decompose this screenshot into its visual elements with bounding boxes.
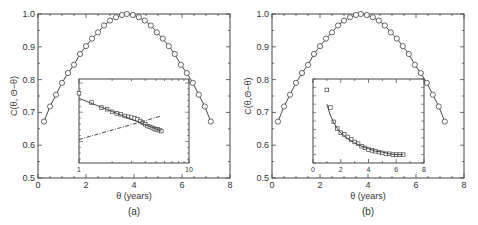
inset-x-tick-label: 0	[311, 166, 315, 173]
inset-data-marker-square	[77, 91, 81, 95]
data-marker-circle	[208, 119, 213, 124]
inset-x-tick-label: 4	[367, 166, 371, 173]
x-tick-label: 6	[179, 180, 184, 190]
inset-x-tick-label: 8	[422, 166, 426, 173]
y-tick-label: 1.0	[256, 9, 269, 19]
data-marker-circle	[136, 15, 141, 20]
inset-data-marker-square	[325, 88, 329, 92]
y-tick-label: 0.9	[256, 42, 269, 52]
panel-caption: (b)	[362, 206, 374, 217]
y-axis-label: C(θ, Θ−θ)	[9, 76, 19, 116]
data-marker-circle	[47, 104, 52, 109]
data-marker-circle	[406, 51, 411, 56]
data-marker-circle	[113, 15, 118, 20]
inset-plot: 02468	[311, 79, 426, 173]
data-marker-circle	[41, 119, 46, 124]
y-tick-label: 1.0	[22, 9, 35, 19]
x-tick-label: 4	[365, 180, 370, 190]
data-marker-circle	[160, 36, 165, 41]
x-tick-label: 8	[461, 180, 466, 190]
inset-x-tick-label: 2	[339, 166, 343, 173]
data-marker-circle	[370, 15, 375, 20]
panel-a: 024680.50.60.70.80.91.0θ (years)C(θ, Θ−θ…	[9, 9, 233, 217]
y-tick-label: 0.6	[22, 140, 35, 150]
data-marker-circle	[281, 104, 286, 109]
data-marker-circle	[184, 70, 189, 75]
x-tick-label: 6	[413, 180, 418, 190]
y-tick-label: 0.7	[22, 107, 35, 117]
y-tick-label: 0.6	[256, 140, 269, 150]
data-marker-circle	[418, 70, 423, 75]
inset-plot: 110	[77, 79, 193, 173]
x-tick-label: 4	[131, 180, 136, 190]
data-marker-circle	[148, 23, 153, 28]
data-marker-circle	[130, 12, 135, 17]
data-marker-circle	[388, 30, 393, 35]
x-axis-label: θ (years)	[350, 191, 386, 201]
data-marker-circle	[382, 23, 387, 28]
x-tick-label: 0	[269, 180, 274, 190]
inset-data-marker-square	[329, 106, 333, 110]
x-tick-label: 2	[317, 180, 322, 190]
data-marker-circle	[394, 36, 399, 41]
inset-x-tick-label: 6	[394, 166, 398, 173]
y-axis-label: C(θ,Θ−θ)	[243, 77, 253, 114]
data-marker-circle	[293, 80, 298, 85]
data-marker-circle	[341, 18, 346, 23]
inset-x-tick-label: 1	[77, 166, 81, 173]
data-marker-circle	[347, 15, 352, 20]
data-marker-circle	[154, 30, 159, 35]
data-marker-circle	[101, 23, 106, 28]
data-marker-circle	[323, 36, 328, 41]
y-tick-label: 0.5	[256, 173, 269, 183]
data-marker-circle	[424, 80, 429, 85]
data-marker-circle	[196, 92, 201, 97]
panel-caption: (a)	[128, 206, 140, 217]
data-marker-circle	[400, 44, 405, 49]
data-marker-circle	[77, 51, 82, 56]
data-marker-circle	[59, 80, 64, 85]
data-marker-circle	[124, 11, 129, 16]
data-marker-circle	[430, 92, 435, 97]
x-tick-label: 8	[227, 180, 232, 190]
data-marker-circle	[329, 30, 334, 35]
data-marker-circle	[364, 12, 369, 17]
data-marker-circle	[142, 18, 147, 23]
y-tick-label: 0.9	[22, 42, 35, 52]
data-marker-circle	[190, 80, 195, 85]
data-marker-circle	[358, 11, 363, 16]
data-marker-circle	[376, 18, 381, 23]
data-marker-circle	[178, 62, 183, 67]
data-marker-circle	[412, 62, 417, 67]
y-tick-label: 0.5	[22, 173, 35, 183]
data-marker-circle	[65, 70, 70, 75]
data-marker-circle	[311, 51, 316, 56]
y-tick-label: 0.8	[256, 75, 269, 85]
data-marker-circle	[53, 92, 58, 97]
data-marker-circle	[119, 12, 124, 17]
data-marker-circle	[275, 119, 280, 124]
data-marker-circle	[83, 44, 88, 49]
data-marker-circle	[107, 18, 112, 23]
data-marker-circle	[442, 119, 447, 124]
data-marker-circle	[89, 36, 94, 41]
data-marker-circle	[166, 44, 171, 49]
data-marker-circle	[287, 92, 292, 97]
inset-frame	[79, 79, 189, 163]
figure: 024680.50.60.70.80.91.0θ (years)C(θ, Θ−θ…	[0, 0, 478, 225]
x-axis-label: θ (years)	[116, 191, 152, 201]
inset-x-tick-label: 10	[185, 166, 193, 173]
panel-b: 024680.50.60.70.80.91.0θ (years)C(θ,Θ−θ)…	[243, 9, 467, 217]
x-tick-label: 2	[83, 180, 88, 190]
data-marker-circle	[95, 30, 100, 35]
y-tick-label: 0.8	[22, 75, 35, 85]
x-tick-label: 0	[35, 180, 40, 190]
y-tick-label: 0.7	[256, 107, 269, 117]
data-marker-circle	[202, 104, 207, 109]
data-marker-circle	[436, 104, 441, 109]
data-marker-circle	[71, 62, 76, 67]
data-marker-circle	[335, 23, 340, 28]
data-marker-circle	[353, 12, 358, 17]
data-marker-circle	[172, 51, 177, 56]
data-marker-circle	[299, 70, 304, 75]
